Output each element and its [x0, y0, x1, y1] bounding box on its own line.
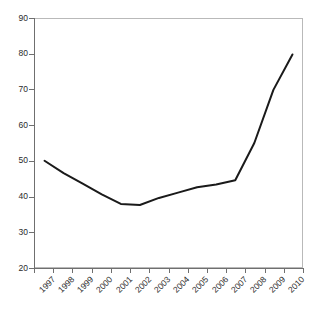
y-axis-tick-label: 80	[2, 49, 28, 58]
x-axis-tick	[72, 269, 73, 273]
y-axis-tick-label: 90	[2, 14, 28, 23]
y-axis-tick	[29, 54, 35, 55]
y-axis-tick	[29, 18, 35, 19]
line-chart-figure: 2030405060708090 19971998199920002001200…	[0, 0, 314, 310]
y-axis-tick-label: 70	[2, 85, 28, 94]
y-axis-tick-label: 50	[2, 156, 28, 165]
x-axis-tick	[169, 269, 170, 273]
x-axis-tick	[53, 269, 54, 273]
plot-area	[34, 18, 303, 268]
x-axis-tick	[226, 269, 227, 273]
y-axis-tick	[29, 89, 35, 90]
x-axis-tick	[265, 269, 266, 273]
y-axis-tick	[29, 197, 35, 198]
y-axis-tick-label: 30	[2, 228, 28, 237]
y-axis-tick-label: 20	[2, 264, 28, 273]
x-axis-tick	[303, 269, 304, 273]
y-axis-tick-label: 60	[2, 121, 28, 130]
data-series-line	[45, 54, 293, 205]
x-axis-tick	[111, 269, 112, 273]
x-axis-tick	[207, 269, 208, 273]
y-axis-tick-label: 40	[2, 192, 28, 201]
x-axis-tick	[149, 269, 150, 273]
y-axis-tick	[29, 161, 35, 162]
x-axis-tick	[130, 269, 131, 273]
x-axis-tick	[245, 269, 246, 273]
y-axis-tick	[29, 232, 35, 233]
y-axis-tick	[29, 125, 35, 126]
x-axis-tick	[188, 269, 189, 273]
x-axis-tick	[34, 269, 35, 273]
x-axis-tick	[284, 269, 285, 273]
x-axis-tick	[92, 269, 93, 273]
data-line-svg	[35, 19, 302, 267]
